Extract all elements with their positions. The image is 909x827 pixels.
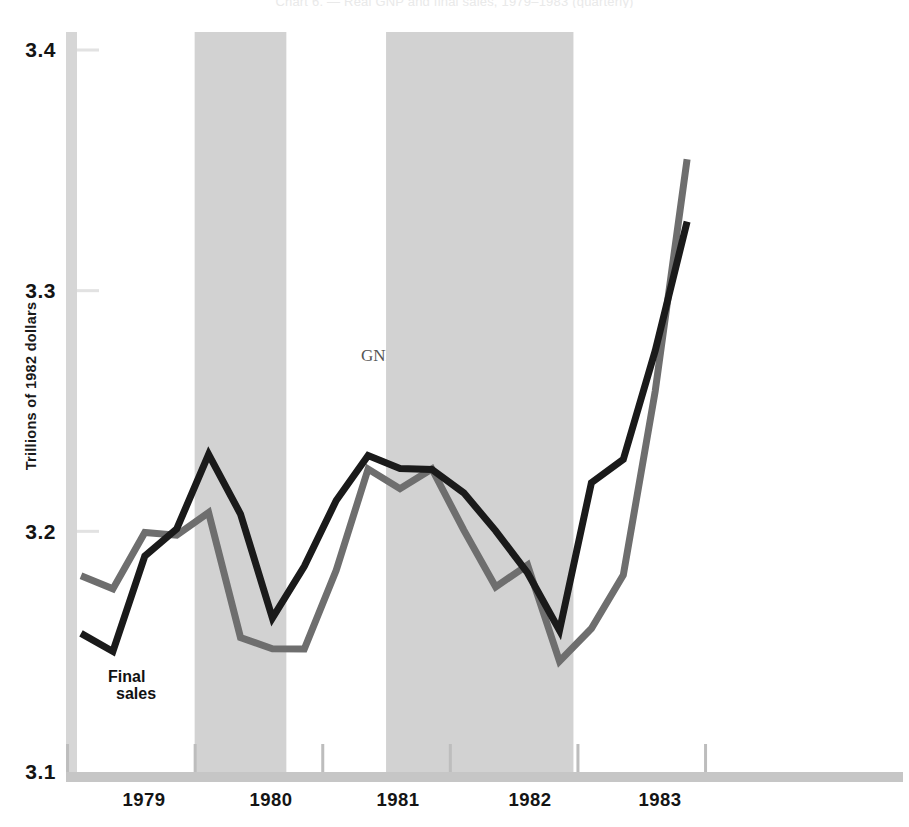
y-axis-tick	[77, 530, 99, 533]
y-axis-ticks	[77, 49, 99, 533]
x-axis-tick	[194, 744, 197, 772]
x-axis-tick	[321, 744, 324, 772]
y-axis-tick	[77, 49, 99, 52]
chart-container: Chart 6. — Real GNP and final sales, 197…	[0, 0, 909, 827]
x-axis-tick	[576, 744, 579, 772]
x-axis-spine	[66, 772, 903, 782]
x-axis-tick	[66, 744, 69, 772]
recession-band	[386, 32, 573, 772]
recession-band	[195, 32, 287, 772]
y-axis-spine	[66, 32, 77, 778]
x-axis-tick	[704, 744, 707, 772]
recession-bands	[195, 32, 574, 772]
plot-area	[0, 0, 909, 827]
y-axis-tick	[77, 289, 99, 292]
line-series-gnp	[81, 159, 687, 661]
line-series-final-sales	[81, 222, 687, 652]
x-axis-tick	[449, 744, 452, 772]
